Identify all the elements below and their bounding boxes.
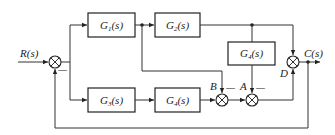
junction-label-d: D bbox=[279, 67, 288, 79]
junction-label-b: B bbox=[210, 80, 217, 92]
svg-text:G2(s): G2(s) bbox=[166, 19, 189, 33]
minus-sign: — bbox=[58, 65, 67, 75]
junction-label-a: A bbox=[239, 80, 247, 92]
input-signal: R(s) bbox=[18, 47, 48, 62]
block-g1: G1(s) bbox=[88, 13, 135, 37]
summing-junction-input: — bbox=[49, 56, 67, 75]
svg-text:—: — bbox=[256, 83, 265, 93]
svg-text:G1(s): G1(s) bbox=[100, 19, 123, 33]
block-g4-right: G4(s) bbox=[228, 42, 275, 65]
block-g3: G3(s) bbox=[88, 88, 135, 112]
svg-text:G4(s): G4(s) bbox=[240, 47, 263, 61]
svg-text:—: — bbox=[226, 83, 235, 93]
block-g2: G2(s) bbox=[155, 13, 200, 37]
input-label: R(s) bbox=[19, 47, 39, 60]
output-label: C(s) bbox=[304, 47, 323, 60]
svg-text:G4(s): G4(s) bbox=[166, 94, 189, 108]
block-diagram: R(s) — G1(s) G2(s) G4(s) G3(s) bbox=[0, 0, 335, 135]
svg-text:G3(s): G3(s) bbox=[100, 94, 123, 108]
block-g4-bottom: G4(s) bbox=[155, 88, 200, 112]
summing-junction-d: D bbox=[279, 56, 299, 79]
